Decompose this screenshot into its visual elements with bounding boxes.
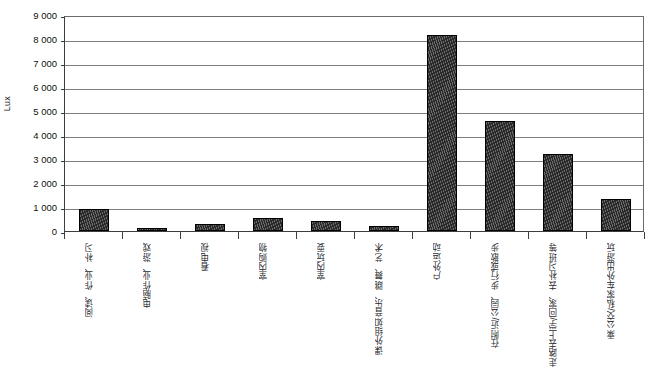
- x-axis-category-label: 在附近/公园、步行或散步: [492, 243, 506, 348]
- x-axis-category-label: 走路去上学/回家、去补习班等: [550, 243, 564, 367]
- bar-chart: Lux 9 0008 0007 0006 0005 0004 0003 0002…: [0, 0, 652, 391]
- bar: [137, 228, 167, 231]
- bar: [601, 199, 631, 231]
- x-axis-category-label: 课外组如音乐、跳舞、艺术: [376, 243, 390, 355]
- y-axis-tick-mark: [61, 161, 65, 162]
- x-axis-tick-mark: [64, 232, 65, 239]
- x-axis-tick-mark: [180, 232, 181, 239]
- y-axis-tick-label: 9 000: [33, 11, 57, 21]
- y-axis-tick-mark: [61, 89, 65, 90]
- x-axis-tick-mark: [644, 232, 645, 239]
- bar: [79, 209, 109, 231]
- y-axis-tick-label: 2 000: [33, 179, 57, 189]
- y-axis-tick-mark: [61, 41, 65, 42]
- bar: [427, 35, 457, 231]
- x-axis-category-label: 乘公交/私家车外出游玩: [608, 243, 622, 339]
- plot-area: [64, 16, 644, 232]
- bars-group: [65, 17, 643, 231]
- x-axis-category-label: 室内玩耍: [318, 243, 332, 280]
- y-axis-tick-label: 6 000: [33, 83, 57, 93]
- x-axis-category-label: 电脑作业、游戏: [144, 243, 158, 308]
- y-axis-tick-label: 1 000: [33, 203, 57, 213]
- y-axis-tick-label: 0: [52, 227, 57, 237]
- y-axis-tick-mark: [61, 209, 65, 210]
- x-axis-tick-mark: [122, 232, 123, 239]
- y-axis-tick-mark: [61, 17, 65, 18]
- y-axis-tick-mark: [61, 65, 65, 66]
- y-axis-tick-mark: [61, 137, 65, 138]
- x-axis-tick-mark: [354, 232, 355, 239]
- x-axis-tick-mark: [296, 232, 297, 239]
- x-axis-category-label: 阅读、作业、补习: [86, 243, 100, 317]
- x-axis-category-label: 看电视: [202, 243, 216, 271]
- bar: [485, 121, 515, 231]
- y-axis-tick-label: 5 000: [33, 107, 57, 117]
- x-axis-tick-marks: [64, 232, 644, 240]
- y-axis-tick-mark: [61, 113, 65, 114]
- x-axis-tick-mark: [586, 232, 587, 239]
- y-axis-tick-label: 4 000: [33, 131, 57, 141]
- x-axis-category-label: 室内购物: [260, 243, 274, 280]
- y-axis-tick-label: 8 000: [33, 35, 57, 45]
- x-axis-tick-mark: [528, 232, 529, 239]
- bar: [253, 218, 283, 231]
- bar: [369, 226, 399, 231]
- x-axis-tick-mark: [412, 232, 413, 239]
- y-axis-tick-label: 3 000: [33, 155, 57, 165]
- bar: [195, 224, 225, 231]
- x-axis-tick-mark: [238, 232, 239, 239]
- x-axis-category-labels: 阅读、作业、补习电脑作业、游戏看电视室内购物室内玩耍课外组如音乐、跳舞、艺术户外…: [64, 243, 644, 391]
- bar: [543, 154, 573, 231]
- y-axis-tick-labels: 9 0008 0007 0006 0005 0004 0003 0002 000…: [16, 16, 62, 232]
- x-axis-tick-mark: [470, 232, 471, 239]
- x-axis-category-label: 户外运动: [434, 243, 448, 280]
- y-axis-tick-label: 7 000: [33, 59, 57, 69]
- y-axis-tick-mark: [61, 185, 65, 186]
- y-axis-title: Lux: [2, 96, 16, 111]
- bar: [311, 221, 341, 231]
